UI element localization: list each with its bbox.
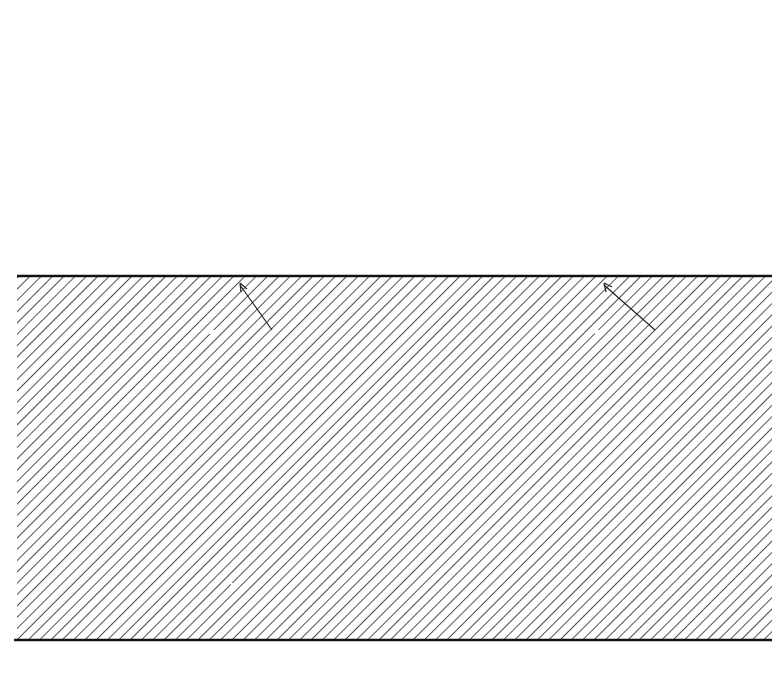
substrate <box>14 276 772 640</box>
label-low-surface-energy-phase <box>208 330 216 334</box>
label-substrate <box>231 583 239 587</box>
diagram-canvas <box>0 0 772 685</box>
label-high-surface-energy-phase <box>595 330 603 334</box>
